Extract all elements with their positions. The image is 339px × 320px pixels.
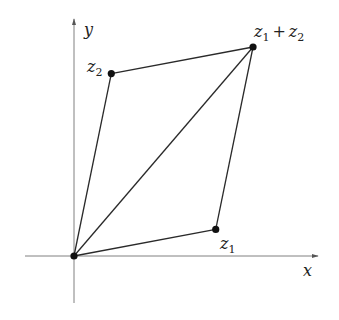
edge-origin-to-z1 — [74, 229, 216, 256]
point-z2 — [108, 70, 115, 77]
z1-label-sub: 1 — [228, 243, 235, 256]
point-z1 — [212, 226, 219, 233]
point-z1-plus-z2 — [249, 43, 256, 50]
z2-label-sub: 2 — [95, 66, 102, 79]
z1-label: z1 — [219, 234, 235, 256]
z2-label: z2 — [86, 57, 102, 79]
diagram-canvas: y x z2 z1 z1+z2 — [0, 0, 339, 320]
x-axis-label: x — [303, 261, 312, 280]
z1-plus-z2-sub1: 1 — [262, 31, 269, 44]
z1-plus-z2-label: z1+z2 — [253, 22, 304, 44]
z1-plus-z2-sub2: 2 — [297, 31, 304, 44]
point-origin — [70, 252, 77, 259]
y-axis-label: y — [83, 20, 94, 39]
edge-z2-to-z1-plus-z2 — [111, 47, 253, 74]
plus-operator: + — [272, 22, 285, 41]
edge-z1-to-z1-plus-z2 — [216, 47, 253, 229]
edge-origin-to-z2 — [74, 74, 111, 256]
parallelogram-diagram: y x z2 z1 z1+z2 — [0, 0, 339, 320]
